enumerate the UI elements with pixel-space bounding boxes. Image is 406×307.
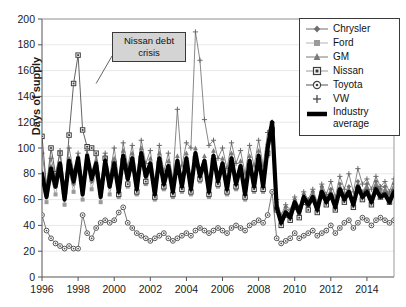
legend-marker-diamond-icon (304, 22, 330, 36)
legend-marker-circle-icon (304, 78, 330, 92)
legend-item-ford: Ford (300, 36, 399, 50)
svg-text:20: 20 (23, 245, 35, 257)
svg-text:60: 60 (23, 193, 35, 205)
svg-text:200: 200 (17, 13, 35, 25)
svg-text:2010: 2010 (283, 283, 307, 295)
svg-text:120: 120 (17, 116, 35, 128)
chart-figure: Days of supply 0204060801001201401601802… (0, 0, 406, 307)
svg-text:100: 100 (17, 142, 35, 154)
svg-text:2004: 2004 (175, 283, 199, 295)
annotation-line-1: Nissan debt (115, 35, 183, 47)
legend-label-industry-line1: Industry (333, 106, 369, 117)
legend-item-chrysler: Chrysler (300, 22, 399, 36)
legend-item-toyota: Toyota (300, 78, 399, 92)
legend-item-nissan: Nissan (300, 64, 399, 78)
legend-label-gm: GM (330, 51, 349, 63)
svg-text:0: 0 (29, 271, 35, 283)
annotation-line-2: crisis (115, 47, 183, 59)
legend-marker-square-dark-icon (304, 64, 330, 78)
legend-marker-plus-icon (304, 92, 330, 106)
legend-item-vw: VW (300, 92, 399, 106)
legend-label-ford: Ford (330, 37, 354, 49)
legend-marker-triangle-icon (304, 50, 330, 64)
annotation-nissan-debt-crisis: Nissan debt crisis (112, 32, 186, 62)
svg-text:140: 140 (17, 90, 35, 102)
svg-text:1996: 1996 (30, 283, 54, 295)
svg-text:2012: 2012 (319, 283, 343, 295)
svg-text:180: 180 (17, 38, 35, 50)
svg-text:2000: 2000 (103, 283, 127, 295)
svg-text:1998: 1998 (66, 283, 90, 295)
legend-marker-thick-line-icon (304, 106, 330, 120)
svg-text:160: 160 (17, 64, 35, 76)
svg-text:40: 40 (23, 219, 35, 231)
svg-text:2002: 2002 (139, 283, 163, 295)
legend-label-nissan: Nissan (330, 65, 364, 77)
legend-label-chrysler: Chrysler (330, 23, 370, 35)
legend-label-industry-average: Industry average (330, 106, 369, 130)
legend-label-toyota: Toyota (330, 79, 362, 91)
legend-label-industry-line2: average (333, 118, 369, 129)
legend-item-gm: GM (300, 50, 399, 64)
svg-text:2006: 2006 (211, 283, 235, 295)
chart-legend: Chrysler Ford GM Nissan (299, 18, 400, 136)
legend-item-industry-average: Industry average (300, 106, 399, 132)
legend-marker-square-icon (304, 36, 330, 50)
legend-label-vw: VW (330, 93, 349, 105)
svg-text:2014: 2014 (355, 283, 379, 295)
svg-text:2008: 2008 (247, 283, 271, 295)
svg-text:80: 80 (23, 167, 35, 179)
